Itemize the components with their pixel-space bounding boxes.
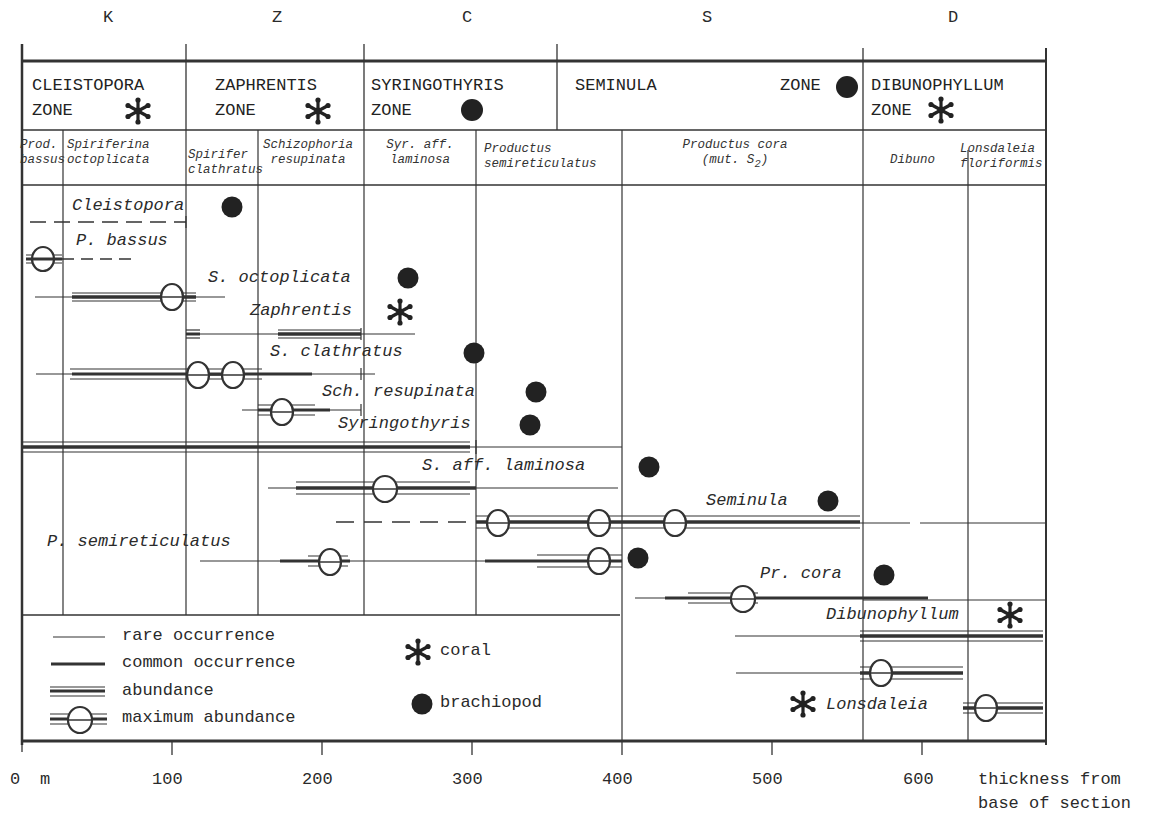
brachiopod-icon [464,343,485,364]
brachiopod-icon [520,415,541,436]
x-tick-400: 400 [602,770,633,789]
bar-p-semireticulatus [200,548,622,575]
legend-maximum-label: maximum abundance [122,708,295,727]
subzone-dibuno: Dibuno [890,153,935,168]
species-label-p-semireticulatus: P. semireticulatus [47,532,231,551]
species-label-syringothyris: Syringothyris [338,414,471,433]
species-label-seminula: Seminula [706,491,788,510]
zone-letter-k: K [103,8,113,27]
x-axis-ticks [22,741,922,755]
x-tick-100: 100 [152,770,183,789]
x-axis-unit: m [40,770,50,789]
legend-abundance-label: abundance [122,681,214,700]
brachiopod-icon [818,491,839,512]
coral-icon [387,298,412,325]
species-label-dibunophyllum: Dibunophyllum [826,605,959,624]
legend-brachiopod-label: brachiopod [440,693,542,712]
x-tick-0: 0 [10,770,20,789]
brachiopod-icon [222,197,243,218]
subzone-productus-cora: Productus cora (mut. S2) [660,138,810,172]
brachiopod-icon [628,548,649,569]
zone-zaphrentis: ZAPHRENTISZONE [215,73,317,123]
species-label-zaphrentis: Zaphrentis [250,301,352,320]
subzone-syr-aff-laminosa: Syr. aff.laminosa [370,138,470,168]
species-label-s-aff-laminosa: S. aff. laminosa [422,456,585,475]
x-tick-200: 200 [302,770,333,789]
species-label-sch-resupinata: Sch. resupinata [322,382,475,401]
legend-graphics [50,637,107,733]
brachiopod-icon [874,565,895,586]
brachiopod-icon [526,382,547,403]
legend-common-label: common occurrence [122,653,295,672]
bar-seminula [336,510,1046,536]
bar-zaphrentis [186,328,415,340]
x-tick-600: 600 [903,770,934,789]
x-tick-500: 500 [752,770,783,789]
x-axis-title: thickness from base of section [978,768,1131,813]
brachiopod-icon [398,268,419,289]
x-tick-300: 300 [452,770,483,789]
coral-icon [790,690,815,717]
subzone-lonsdaleia-floriformis: Lonsdaleiafloriformis [960,142,1043,172]
bar-p-bassus [26,247,135,271]
zone-seminula-suffix: ZONE [780,73,821,98]
subzone-grid [63,130,1046,741]
subzone-spiriferina-octoplicata: Spiriferinaoctoplicata [67,138,150,168]
range-chart: K Z C S D CLEISTOPORAZONE ZAPHRENTISZONE… [0,0,1172,813]
zone-letter-z: Z [272,8,282,27]
legend-coral-label: coral [440,641,491,660]
bar-syringothyris [22,440,622,454]
zone-cleistopora: CLEISTOPORAZONE [32,73,144,123]
brachiopod-icon [412,694,433,715]
subzone-prod-bassus: Prod.bassus [20,138,65,168]
zone-syringothyris: SYRINGOTHYRISZONE [371,73,504,123]
subzone-productus-semireticulatus: Productussemireticulatus [484,142,597,172]
species-label-p-bassus: P. bassus [76,231,168,250]
species-label-s-clathratus: S. clathratus [270,342,403,361]
brachiopod-icon [836,76,858,98]
coral-icon [997,601,1022,628]
coral-icon [405,638,430,665]
subzone-schizophoria-resupinata: Schizophoriaresupinata [238,138,378,168]
zone-seminula-name: SEMINULA [575,73,657,98]
zone-letter-d: D [948,8,958,27]
legend-rare-label: rare occurrence [122,626,275,645]
brachiopod-icon [639,457,660,478]
zone-letter-c: C [462,8,472,27]
zone-dibunophyllum: DIBUNOPHYLLUMZONE [871,73,1004,123]
species-label-lonsdaleia: Lonsdaleia [826,695,928,714]
bar-s-aff-laminosa [268,476,618,502]
bar-dibunophyllum [735,631,1043,686]
bar-lonsdaleia [963,695,1043,721]
species-label-cleistopora: Cleistopora [72,196,184,215]
species-label-pr-cora: Pr. cora [760,564,842,583]
species-label-s-octoplicata: S. octoplicata [208,268,351,287]
zone-letter-s: S [702,8,712,27]
